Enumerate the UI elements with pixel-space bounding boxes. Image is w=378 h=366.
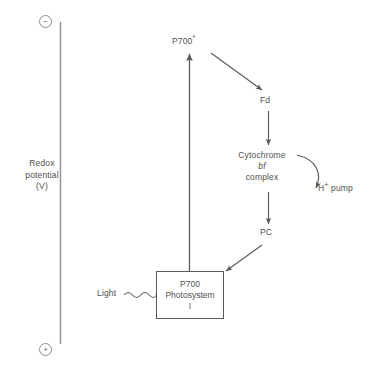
- node-p700-excited-superscript: *: [192, 34, 195, 41]
- photosystem-box-line-2: Photosystem: [165, 290, 214, 301]
- arrow-p700-excited-to-fd: [211, 53, 262, 90]
- node-light-label: Light: [97, 288, 116, 299]
- axis-label-line-1: Redox: [14, 158, 70, 170]
- axis-label-line-3: (V): [14, 181, 70, 193]
- node-fd: Fd: [260, 95, 270, 106]
- light-wave-squiggle: [124, 293, 158, 298]
- node-pc: PC: [260, 227, 272, 238]
- node-p700-excited-text: P700: [172, 36, 192, 46]
- arrow-pc-to-photosystem: [226, 245, 262, 271]
- node-h-pump-suffix: pump: [329, 183, 353, 193]
- arrow-cytochrome-to-hpump: [297, 155, 319, 188]
- cytochrome-line-1: Cytochrome: [231, 150, 293, 161]
- cytochrome-line-3: complex: [231, 172, 293, 183]
- photosystem-box-line-1: P700: [180, 279, 200, 290]
- diagram-canvas: − + Redox potential (V) P700* Fd Cytochr…: [0, 0, 378, 366]
- redox-potential-axis-label: Redox potential (V): [14, 158, 70, 193]
- node-p700-excited: P700*: [172, 36, 195, 47]
- cytochrome-line-2: bf: [231, 161, 293, 172]
- photosystem-one-box: P700 Photosystem I: [156, 271, 224, 319]
- node-h-pump: H+ pump: [318, 183, 353, 194]
- photosystem-box-line-3: I: [189, 301, 191, 312]
- axis-label-line-2: potential: [14, 170, 70, 182]
- axis-positive-marker: +: [39, 343, 52, 356]
- node-cytochrome-bf-complex: Cytochrome bf complex: [231, 150, 293, 183]
- axis-negative-marker: −: [39, 15, 52, 28]
